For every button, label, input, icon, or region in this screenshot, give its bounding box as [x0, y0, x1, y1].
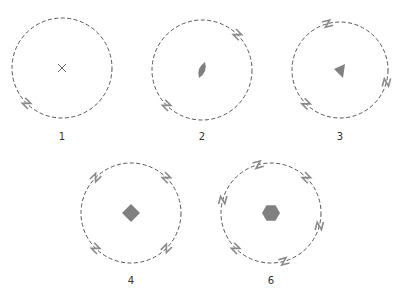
figure-label-6: 6 — [268, 275, 274, 286]
figure-label-2: 2 — [199, 131, 205, 142]
z-marker-icon — [382, 77, 390, 88]
figure-4 — [81, 163, 181, 263]
figure-label-4: 4 — [128, 275, 134, 286]
lens-shape — [198, 62, 206, 78]
figure-1 — [12, 18, 112, 118]
figure-3 — [292, 19, 391, 118]
hexagon-shape — [262, 205, 280, 221]
triangle-shape — [334, 64, 345, 78]
z-marker-icon — [219, 194, 227, 205]
figure-6 — [219, 161, 324, 266]
cross-icon — [58, 64, 66, 72]
z-marker-icon — [315, 220, 323, 231]
z-marker-icon — [322, 19, 333, 27]
z-marker-icon — [252, 161, 263, 169]
figure-label-1: 1 — [59, 131, 65, 142]
z-marker-icon — [278, 257, 289, 265]
diamond-shape — [122, 204, 140, 222]
figure-label-3: 3 — [337, 131, 343, 142]
symmetry-diagram — [0, 0, 404, 298]
figure-2 — [152, 20, 252, 120]
